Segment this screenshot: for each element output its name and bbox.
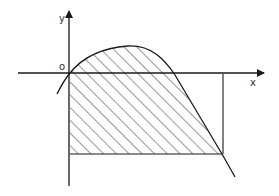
hatched-region <box>70 46 222 154</box>
y-axis-label: y <box>59 13 65 24</box>
x-axis-label: x <box>250 77 256 88</box>
origin-label: o <box>59 61 65 72</box>
diagram-canvas: y x o <box>0 0 279 196</box>
